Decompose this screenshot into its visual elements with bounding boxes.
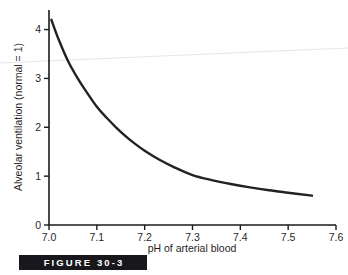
y-axis-title: Alveolar ventilation (normal = 1) (12, 43, 24, 191)
y-tick-label: 2 (35, 121, 41, 133)
y-tick-label: 4 (35, 23, 41, 35)
x-tick-label: 7.1 (90, 231, 105, 243)
y-tick-label: 1 (35, 170, 41, 182)
ventilation-curve (51, 20, 312, 196)
y-tick-label: 0 (35, 219, 41, 231)
y-tick-label: 3 (35, 72, 41, 84)
x-tick-label: 7.0 (42, 231, 57, 243)
x-tick-label: 7.5 (281, 231, 296, 243)
figure-container: 01234 7.07.17.27.37.47.57.6 pH of arteri… (0, 0, 348, 275)
scan-artifact-line (0, 48, 348, 63)
x-tick-label: 7.6 (329, 231, 344, 243)
figure-caption-banner: FIGURE 30-3 (19, 255, 147, 270)
y-axis-ticks: 01234 (35, 23, 49, 230)
alveolar-ventilation-chart: 01234 7.07.17.27.37.47.57.6 pH of arteri… (0, 0, 348, 275)
x-axis-title: pH of arterial blood (148, 242, 237, 254)
x-axis-ticks: 7.07.17.27.37.47.57.6 (42, 225, 344, 243)
figure-caption-text: FIGURE 30-3 (42, 257, 125, 268)
